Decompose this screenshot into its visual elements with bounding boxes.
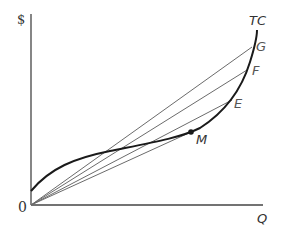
point-f-label: F [252,64,259,77]
point-e-label: E [234,97,242,110]
point-m-label: M [196,133,207,146]
ray-to-m [31,132,191,205]
ray-to-e [31,100,232,205]
ray-to-g [31,47,252,205]
cost-diagram [0,0,281,236]
total-cost-curve [31,30,257,191]
origin-label: 0 [18,200,27,214]
point-g-label: G [256,40,266,53]
point-m-marker [188,129,194,135]
tc-label: TC [249,14,266,27]
x-axis-label: Q [257,212,267,225]
y-axis-label: $ [17,13,25,26]
ray-to-f [31,70,247,205]
